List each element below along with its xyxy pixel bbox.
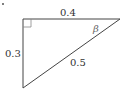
triangle-diagram: 0.4 β 0.3 0.5: [0, 0, 123, 106]
top-side-label: 0.4: [60, 7, 76, 18]
stray-dot: [2, 3, 4, 5]
angle-beta-label: β: [92, 23, 99, 34]
left-side-label: 0.3: [5, 48, 21, 59]
right-triangle: [23, 19, 120, 88]
right-angle-marker: [23, 19, 31, 27]
hypotenuse-label: 0.5: [70, 57, 86, 68]
